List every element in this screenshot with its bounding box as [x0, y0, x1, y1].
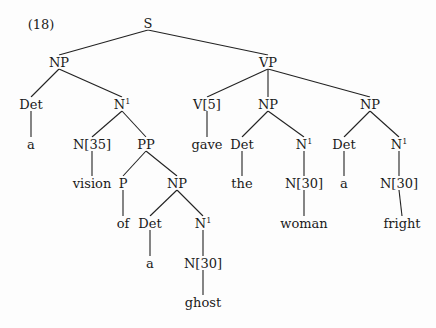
node-superscript: 1 — [206, 216, 211, 225]
node-label: N — [114, 97, 125, 112]
node-label: NP — [360, 97, 380, 112]
node-label: ghost — [185, 295, 221, 310]
node-label: N — [296, 137, 307, 152]
node-label: P — [119, 176, 128, 191]
node-label: N — [195, 216, 206, 231]
node-label: fright — [383, 216, 420, 231]
tree-edge — [150, 190, 177, 216]
tree-node: fright — [382, 217, 421, 230]
tree-edge — [268, 111, 304, 137]
node-label: a — [146, 256, 154, 271]
tree-edge — [92, 111, 122, 137]
tree-node: a — [26, 138, 36, 151]
node-label: N[30] — [285, 176, 323, 191]
tree-node: NP — [48, 56, 70, 69]
tree-node: a — [145, 257, 155, 270]
node-label: N[35] — [73, 137, 111, 152]
tree-edge — [344, 111, 370, 137]
tree-edge — [370, 111, 399, 137]
node-label: Det — [230, 137, 253, 152]
tree-node: VP — [258, 56, 278, 69]
tree-edge — [207, 69, 268, 97]
tree-edge — [146, 151, 177, 176]
node-label: N[30] — [184, 256, 222, 271]
node-label: vision — [73, 176, 112, 191]
tree-edges — [0, 0, 436, 328]
tree-node: ghost — [184, 296, 222, 309]
tree-node: N1 — [390, 138, 408, 151]
node-label: woman — [280, 216, 327, 231]
tree-node: N1 — [113, 98, 131, 111]
node-label: N — [391, 137, 402, 152]
node-label: Det — [138, 216, 161, 231]
tree-node: NP — [359, 98, 381, 111]
tree-edge — [31, 69, 59, 97]
node-label: a — [340, 176, 348, 191]
tree-edge — [268, 69, 370, 97]
tree-node: vision — [72, 177, 113, 190]
node-label: NP — [258, 97, 278, 112]
tree-node: N[30] — [183, 257, 223, 270]
tree-node: PP — [136, 138, 156, 151]
tree-node: Det — [331, 138, 356, 151]
tree-node: the — [230, 177, 253, 190]
tree-node: P — [118, 177, 129, 190]
node-label: NP — [167, 176, 187, 191]
tree-node: NP — [257, 98, 279, 111]
node-label: Det — [332, 137, 355, 152]
node-label: a — [27, 137, 35, 152]
node-label: S — [144, 16, 153, 31]
node-label: VP — [259, 55, 277, 70]
syntax-tree-diagram: (18) SNPVPDetN1V[5]NPNPaN[35]PPgaveDetN1… — [0, 0, 436, 328]
tree-node: Det — [18, 98, 43, 111]
node-superscript: 1 — [125, 97, 130, 106]
tree-node: N1 — [295, 138, 313, 151]
tree-node: Det — [137, 217, 162, 230]
tree-node: of — [116, 217, 131, 230]
tree-edge — [59, 30, 148, 55]
tree-edge — [122, 111, 146, 137]
tree-edge — [177, 190, 203, 216]
tree-node: a — [339, 177, 349, 190]
tree-node: S — [143, 17, 154, 30]
tree-node: woman — [279, 217, 328, 230]
tree-node: NP — [166, 177, 188, 190]
tree-node: Det — [229, 138, 254, 151]
tree-node: N1 — [194, 217, 212, 230]
node-label: the — [231, 176, 252, 191]
node-label: gave — [191, 137, 222, 152]
tree-node: N[35] — [72, 138, 112, 151]
tree-node: N[30] — [379, 177, 419, 190]
tree-node: V[5] — [192, 98, 222, 111]
node-label: NP — [49, 55, 69, 70]
node-label: PP — [137, 137, 155, 152]
tree-edge — [399, 190, 402, 216]
example-number: (18) — [28, 17, 55, 32]
node-label: of — [117, 216, 130, 231]
tree-edge — [123, 151, 146, 176]
node-superscript: 1 — [402, 137, 407, 146]
node-superscript: 1 — [307, 137, 312, 146]
node-label: N[30] — [380, 176, 418, 191]
tree-node: gave — [190, 138, 223, 151]
tree-edge — [148, 30, 268, 55]
node-label: Det — [19, 97, 42, 112]
tree-node: N[30] — [284, 177, 324, 190]
tree-edge — [242, 111, 268, 137]
node-label: V[5] — [193, 97, 221, 112]
tree-edge — [59, 69, 122, 97]
